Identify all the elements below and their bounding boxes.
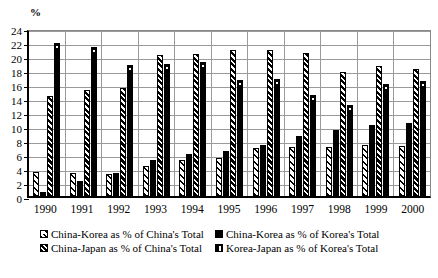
- bar: [120, 88, 126, 196]
- bar: [223, 151, 229, 196]
- legend-swatch-icon: [215, 244, 223, 252]
- legend-swatch-icon: [40, 244, 48, 252]
- bar: [362, 145, 368, 196]
- bar: [253, 148, 259, 196]
- bar: [47, 96, 53, 196]
- bar-group: [285, 31, 322, 196]
- x-axis-tick-label: 1997: [284, 203, 321, 215]
- y-axis-tick-label: 6: [17, 152, 23, 163]
- bar: [326, 147, 332, 196]
- bar: [230, 50, 236, 196]
- bar: [84, 90, 90, 196]
- y-axis-tick: [24, 199, 29, 200]
- x-axis-tick-label: 1995: [211, 203, 248, 215]
- y-axis-tick-label: 20: [11, 54, 22, 65]
- bar-group: [139, 31, 176, 196]
- bar: [340, 72, 346, 196]
- y-axis-tick-label: 10: [11, 124, 22, 135]
- x-axis-tick-label: 1993: [137, 203, 174, 215]
- legend-item: Korea-Japan as % of Korea's Total: [215, 242, 400, 254]
- bar: [127, 65, 133, 196]
- x-axis-tick-label: 1999: [358, 203, 395, 215]
- bar: [70, 173, 76, 196]
- legend-item: China-Korea as % of Korea's Total: [215, 228, 400, 240]
- bar: [383, 84, 389, 196]
- bar: [413, 69, 419, 196]
- bar: [267, 50, 273, 196]
- bar: [193, 54, 199, 196]
- bar: [296, 136, 302, 196]
- plot-area: 024681012141618202224: [27, 30, 431, 198]
- chart-legend: China-Korea as % of China's TotalChina-K…: [40, 228, 400, 254]
- bar-group: [66, 31, 103, 196]
- bar-group: [212, 31, 249, 196]
- bar-group: [358, 31, 395, 196]
- bar: [274, 79, 280, 196]
- bar: [303, 53, 309, 196]
- bar: [150, 160, 156, 196]
- bar: [420, 81, 426, 197]
- bar: [40, 192, 46, 196]
- bar: [333, 130, 339, 196]
- bar: [289, 147, 295, 196]
- bar-group: [29, 31, 66, 196]
- bar: [164, 64, 170, 196]
- bar-groups: [29, 31, 430, 196]
- x-axis-tick-label: 2000: [394, 203, 431, 215]
- legend-item: China-Japan as % of China's Total: [40, 242, 215, 254]
- bar: [260, 145, 266, 196]
- bar: [91, 47, 97, 196]
- x-axis-tick-label: 1994: [174, 203, 211, 215]
- y-axis-tick-label: 24: [11, 26, 22, 37]
- bar: [369, 125, 375, 196]
- y-axis-tick-label: 16: [11, 82, 22, 93]
- bar-group: [102, 31, 139, 196]
- bar-group: [321, 31, 358, 196]
- legend-label: Korea-Japan as % of Korea's Total: [226, 242, 378, 254]
- bar-group: [248, 31, 285, 196]
- bar-group: [394, 31, 430, 196]
- x-axis-tick-label: 1991: [64, 203, 101, 215]
- bar: [113, 173, 119, 196]
- bar: [399, 146, 405, 196]
- x-axis-tick-label: 1998: [321, 203, 358, 215]
- legend-label: China-Korea as % of Korea's Total: [226, 228, 379, 240]
- bar: [376, 66, 382, 196]
- y-axis-tick-label: 14: [11, 96, 22, 107]
- x-axis-labels: 1990199119921993199419951996199719981999…: [27, 203, 431, 215]
- bar: [143, 166, 149, 196]
- bar: [237, 80, 243, 196]
- x-axis-tick-label: 1990: [27, 203, 64, 215]
- bar: [216, 158, 222, 196]
- bar: [186, 154, 192, 196]
- x-axis-tick-label: 1996: [247, 203, 284, 215]
- bar: [179, 160, 185, 196]
- y-axis-tick-label: 8: [17, 138, 23, 149]
- legend-label: China-Korea as % of China's Total: [51, 228, 204, 240]
- legend-swatch-icon: [215, 230, 223, 238]
- bar: [347, 105, 353, 196]
- bar: [200, 62, 206, 196]
- bar: [406, 123, 412, 197]
- bar: [77, 181, 83, 196]
- legend-item: China-Korea as % of China's Total: [40, 228, 215, 240]
- bar: [106, 174, 112, 196]
- bar-group: [175, 31, 212, 196]
- y-axis-tick-label: 2: [17, 180, 23, 191]
- bar: [310, 95, 316, 197]
- bar: [33, 172, 39, 196]
- bar: [54, 43, 60, 196]
- y-axis-unit-label: %: [30, 6, 41, 18]
- x-axis-tick-label: 1992: [100, 203, 137, 215]
- y-axis-tick-label: 22: [11, 40, 22, 51]
- y-axis-tick-label: 12: [11, 110, 22, 121]
- legend-swatch-icon: [40, 230, 48, 238]
- y-axis-tick-label: 4: [17, 166, 23, 177]
- bar-chart: % 024681012141618202224 1990199119921993…: [0, 0, 438, 278]
- legend-label: China-Japan as % of China's Total: [51, 242, 202, 254]
- y-axis-tick-label: 0: [17, 194, 23, 205]
- y-axis-tick-label: 18: [11, 68, 22, 79]
- bar: [157, 55, 163, 196]
